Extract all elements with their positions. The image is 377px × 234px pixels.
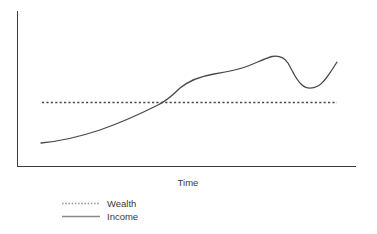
legend-label-income: Income — [107, 211, 138, 222]
legend-label-wealth: Wealth — [107, 198, 136, 209]
chart-container: Time Wealth Income — [0, 0, 377, 234]
chart-canvas: Time Wealth Income — [0, 0, 377, 234]
chart-background — [0, 0, 377, 234]
x-axis-label: Time — [178, 177, 199, 188]
